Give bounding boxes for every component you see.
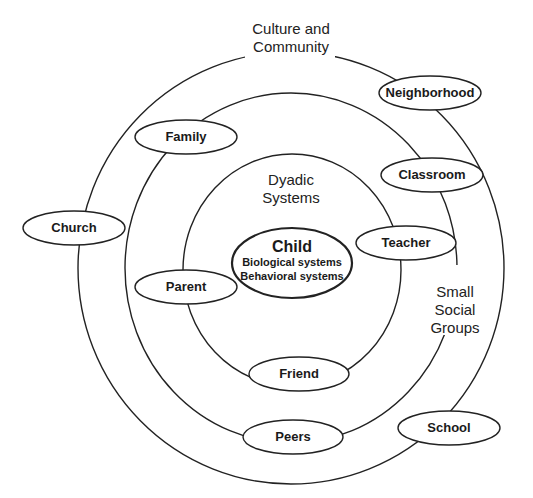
node-church: Church xyxy=(23,211,125,245)
node-parent: Parent xyxy=(135,270,237,304)
node-classroom-label: Classroom xyxy=(398,167,465,182)
node-neighborhood-label: Neighborhood xyxy=(386,85,475,100)
node-school: School xyxy=(398,411,500,445)
node-church-label: Church xyxy=(51,220,97,235)
node-family-label: Family xyxy=(165,129,207,144)
middle-ring-label-line1: Small xyxy=(436,283,474,300)
node-school-label: School xyxy=(427,420,470,435)
node-family: Family xyxy=(135,120,237,154)
node-classroom: Classroom xyxy=(381,158,483,192)
outer-ring-label-line2: Community xyxy=(253,38,329,55)
node-parent-label: Parent xyxy=(166,279,207,294)
node-child: Child Biological systems Behavioral syst… xyxy=(232,228,352,298)
middle-ring-label-line2: Social xyxy=(435,301,476,318)
middle-ring-label-line3: Groups xyxy=(430,319,479,336)
ecological-systems-diagram: Culture and Community Dyadic Systems Sma… xyxy=(0,0,533,498)
node-teacher-label: Teacher xyxy=(382,235,431,250)
node-teacher: Teacher xyxy=(356,226,456,260)
node-friend: Friend xyxy=(249,357,349,391)
node-child-line1: Biological systems xyxy=(242,256,342,268)
node-child-title: Child xyxy=(272,238,312,255)
outer-ring-label-line1: Culture and xyxy=(252,20,330,37)
node-neighborhood: Neighborhood xyxy=(379,76,481,110)
node-peers-label: Peers xyxy=(275,429,310,444)
node-child-line2: Behavioral systems xyxy=(240,270,343,282)
node-peers: Peers xyxy=(243,420,343,454)
node-friend-label: Friend xyxy=(279,366,319,381)
inner-ring-label-line1: Dyadic xyxy=(268,171,314,188)
inner-ring-label-line2: Systems xyxy=(262,189,320,206)
